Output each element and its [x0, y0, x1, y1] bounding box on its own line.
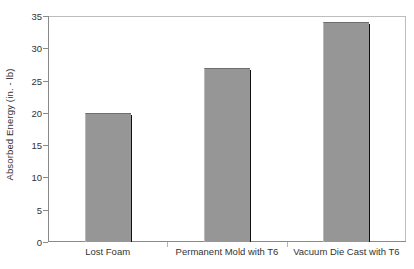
y-axis-tick-mark [43, 16, 48, 17]
y-axis-tick-label: 5 [37, 204, 42, 215]
y-axis-title-text: Absorbed Energy (in. - lb) [4, 68, 15, 180]
x-axis-tick-labels: Lost FoamPermanent Mold with T6Vacuum Di… [48, 246, 406, 264]
bars-layer [48, 16, 406, 242]
y-axis-tick-label: 10 [31, 172, 42, 183]
y-axis-tick-mark [43, 242, 48, 243]
x-axis-tick-label: Vacuum Die Cast with T6 [293, 246, 399, 257]
bar-2 [204, 68, 250, 242]
y-axis-tick-label: 25 [31, 75, 42, 86]
y-axis-tick-mark [43, 210, 48, 211]
y-axis-tick-labels: 05101520253035 [18, 0, 44, 269]
y-axis-tick-label: 20 [31, 107, 42, 118]
y-axis-tick-label: 0 [37, 237, 42, 248]
y-axis-tick-mark [43, 81, 48, 82]
bar-chart: Absorbed Energy (in. - lb) 0510152025303… [0, 0, 414, 269]
bar-1 [85, 113, 131, 242]
y-axis-tick-mark [43, 145, 48, 146]
y-axis-tick-label: 15 [31, 140, 42, 151]
y-axis-title: Absorbed Energy (in. - lb) [0, 0, 18, 248]
bar-3 [323, 22, 369, 242]
y-axis-tick-mark [43, 177, 48, 178]
y-axis-tick-label: 30 [31, 43, 42, 54]
y-axis-tick-mark [43, 113, 48, 114]
x-axis-tick-label: Permanent Mold with T6 [176, 246, 279, 257]
x-axis-tick-label: Lost Foam [85, 246, 130, 257]
x-axis-tick-mark [287, 242, 288, 247]
y-axis-tick-label: 35 [31, 11, 42, 22]
y-axis-tick-mark [43, 48, 48, 49]
x-axis-tick-mark [167, 242, 168, 247]
